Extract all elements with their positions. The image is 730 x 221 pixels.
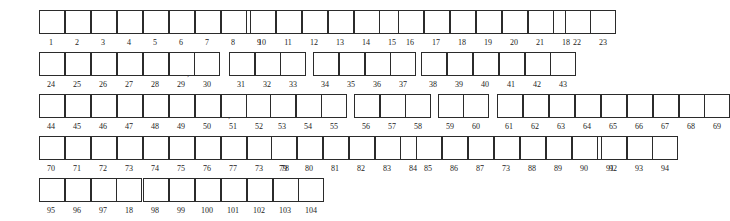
box-cell[interactable] bbox=[652, 136, 678, 160]
box-cell[interactable] bbox=[590, 10, 616, 34]
box-cell[interactable] bbox=[195, 94, 221, 118]
box-cell[interactable] bbox=[276, 10, 302, 34]
box-cell[interactable] bbox=[221, 136, 247, 160]
box-cell[interactable] bbox=[339, 52, 365, 76]
box-cell[interactable] bbox=[221, 94, 247, 118]
box-cell[interactable] bbox=[39, 94, 65, 118]
box-cell[interactable] bbox=[247, 178, 273, 202]
box-cell[interactable] bbox=[523, 94, 549, 118]
box-cell[interactable] bbox=[365, 52, 391, 76]
box-cell[interactable] bbox=[298, 178, 324, 202]
box-cell[interactable] bbox=[627, 94, 653, 118]
box-cell[interactable] bbox=[627, 136, 653, 160]
box-cell[interactable] bbox=[169, 136, 195, 160]
box-cell[interactable] bbox=[328, 10, 354, 34]
box-cell[interactable] bbox=[528, 10, 554, 34]
box-cell[interactable] bbox=[221, 178, 247, 202]
box-cell[interactable] bbox=[468, 136, 494, 160]
box-cell[interactable] bbox=[116, 178, 142, 202]
box-cell[interactable] bbox=[39, 10, 65, 34]
box-cell[interactable] bbox=[302, 10, 328, 34]
box-cell[interactable] bbox=[91, 94, 117, 118]
box-cell[interactable] bbox=[255, 52, 281, 76]
box-cell[interactable] bbox=[442, 136, 468, 160]
box-cell[interactable] bbox=[195, 10, 221, 34]
box-cell[interactable] bbox=[447, 52, 473, 76]
box-cell[interactable] bbox=[499, 52, 525, 76]
box-cell[interactable] bbox=[169, 10, 195, 34]
box-cell[interactable] bbox=[143, 136, 169, 160]
box-cell[interactable] bbox=[550, 52, 576, 76]
box-cell[interactable] bbox=[502, 10, 528, 34]
box-cell[interactable] bbox=[321, 94, 347, 118]
box-cell[interactable] bbox=[375, 136, 401, 160]
box-cell[interactable] bbox=[416, 136, 442, 160]
box-cell[interactable] bbox=[297, 136, 323, 160]
box-cell[interactable] bbox=[525, 52, 551, 76]
box-cell[interactable] bbox=[473, 52, 499, 76]
box-cell[interactable] bbox=[117, 94, 143, 118]
box-cell[interactable] bbox=[143, 10, 169, 34]
box-cell[interactable] bbox=[494, 136, 520, 160]
box-cell[interactable] bbox=[247, 136, 273, 160]
box-cell[interactable] bbox=[280, 52, 306, 76]
box-cell[interactable] bbox=[463, 94, 489, 118]
box-cell[interactable] bbox=[398, 10, 424, 34]
box-cell[interactable] bbox=[91, 178, 117, 202]
box-cell[interactable] bbox=[169, 52, 195, 76]
box-cell[interactable] bbox=[117, 136, 143, 160]
box-cell[interactable] bbox=[679, 94, 705, 118]
box-cell[interactable] bbox=[438, 94, 464, 118]
box-cell[interactable] bbox=[450, 10, 476, 34]
box-cell[interactable] bbox=[250, 10, 276, 34]
box-cell[interactable] bbox=[169, 94, 195, 118]
box-cell[interactable] bbox=[421, 52, 447, 76]
box-cell[interactable] bbox=[195, 136, 221, 160]
box-cell[interactable] bbox=[405, 94, 431, 118]
box-cell[interactable] bbox=[704, 94, 730, 118]
box-cell[interactable] bbox=[194, 52, 220, 76]
box-cell[interactable] bbox=[169, 178, 195, 202]
box-cell[interactable] bbox=[520, 136, 546, 160]
box-cell[interactable] bbox=[39, 178, 65, 202]
box-cell[interactable] bbox=[313, 52, 339, 76]
box-cell[interactable] bbox=[65, 178, 91, 202]
box-cell[interactable] bbox=[565, 10, 591, 34]
box-cell[interactable] bbox=[65, 136, 91, 160]
box-cell[interactable] bbox=[143, 94, 169, 118]
box-cell[interactable] bbox=[270, 94, 296, 118]
box-cell[interactable] bbox=[380, 94, 406, 118]
box-cell[interactable] bbox=[349, 136, 375, 160]
box-cell[interactable] bbox=[323, 136, 349, 160]
box-cell[interactable] bbox=[229, 52, 255, 76]
box-cell[interactable] bbox=[143, 52, 169, 76]
box-cell[interactable] bbox=[117, 52, 143, 76]
box-cell[interactable] bbox=[601, 136, 627, 160]
box-cell[interactable] bbox=[354, 94, 380, 118]
box-cell[interactable] bbox=[195, 178, 221, 202]
box-cell[interactable] bbox=[653, 94, 679, 118]
box-cell[interactable] bbox=[575, 94, 601, 118]
box-cell[interactable] bbox=[271, 136, 297, 160]
box-cell[interactable] bbox=[143, 178, 169, 202]
box-cell[interactable] bbox=[390, 52, 416, 76]
box-cell[interactable] bbox=[601, 94, 627, 118]
box-cell[interactable] bbox=[117, 10, 143, 34]
box-cell[interactable] bbox=[296, 94, 322, 118]
box-cell[interactable] bbox=[39, 52, 65, 76]
box-cell[interactable] bbox=[549, 94, 575, 118]
box-cell[interactable] bbox=[497, 94, 523, 118]
box-cell[interactable] bbox=[221, 10, 247, 34]
box-cell[interactable] bbox=[91, 10, 117, 34]
box-cell[interactable] bbox=[65, 52, 91, 76]
box-cell[interactable] bbox=[65, 10, 91, 34]
box-cell[interactable] bbox=[546, 136, 572, 160]
box-cell[interactable] bbox=[39, 136, 65, 160]
box-cell[interactable] bbox=[354, 10, 380, 34]
box-cell[interactable] bbox=[65, 94, 91, 118]
box-cell[interactable] bbox=[91, 52, 117, 76]
box-cell[interactable] bbox=[91, 136, 117, 160]
box-cell[interactable] bbox=[424, 10, 450, 34]
box-cell[interactable] bbox=[476, 10, 502, 34]
box-cell[interactable] bbox=[572, 136, 598, 160]
